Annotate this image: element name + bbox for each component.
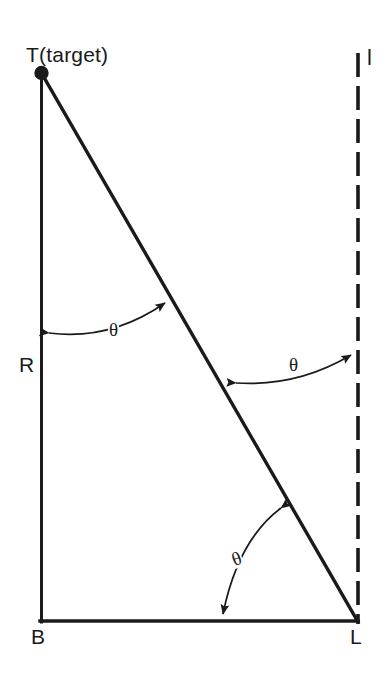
geometry-figure	[0, 0, 382, 674]
diagram-canvas: θ θ θ T(target) R B L l	[0, 0, 382, 674]
theta-label-upper-left: θ	[108, 320, 119, 339]
label-reference-line: l	[367, 47, 372, 69]
label-side-r: R	[19, 354, 34, 375]
target-point-marker	[34, 66, 48, 80]
theta-label-mid-right: θ	[288, 355, 299, 374]
segment-hypotenuse-TL	[42, 73, 359, 622]
angle-arc-upper-left	[49, 303, 165, 334]
label-vertex-l: L	[350, 626, 362, 647]
label-target-point: T(target)	[26, 44, 108, 65]
label-vertex-b: B	[31, 626, 45, 647]
